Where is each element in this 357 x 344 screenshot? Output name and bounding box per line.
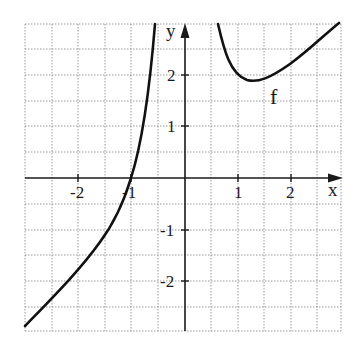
x-tick-label: -2	[70, 183, 84, 202]
curve-right-branch	[218, 23, 339, 81]
y-tick-label: 1	[167, 117, 176, 136]
y-tick-label: -2	[160, 272, 174, 291]
function-label: f	[270, 84, 278, 109]
y-tick-label: 2	[167, 66, 176, 85]
x-tick-label: 1	[234, 183, 243, 202]
function-graph: -2 -1 1 2 2 1 -1 -2 x y f	[0, 0, 357, 344]
y-tick-label: -1	[160, 221, 174, 240]
y-axis-label: y	[166, 20, 176, 41]
x-tick-label: 2	[286, 183, 295, 202]
x-axis-label: x	[328, 179, 338, 200]
y-axis-arrow-icon	[181, 23, 190, 38]
